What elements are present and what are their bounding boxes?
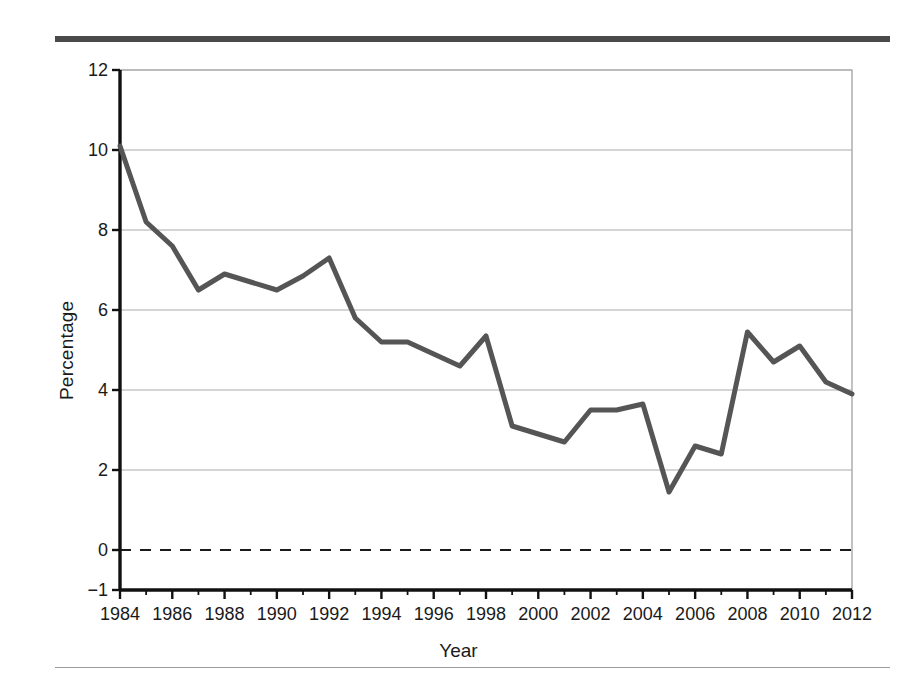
x-axis-tick-label: 2008: [727, 604, 767, 625]
y-axis-tick-label: 0: [60, 540, 108, 561]
x-axis-tick-label: 1986: [152, 604, 192, 625]
y-axis-tick-label: 12: [60, 60, 108, 81]
y-axis-tick-label: 4: [60, 380, 108, 401]
x-axis-tick-label: 2002: [571, 604, 611, 625]
line-chart-svg: [0, 0, 917, 693]
x-axis-tick-label: 1998: [466, 604, 506, 625]
x-axis-tick-label: 1988: [205, 604, 245, 625]
x-axis-tick-label: 2000: [518, 604, 558, 625]
y-axis-tick-label: 8: [60, 220, 108, 241]
chart-plot-area: Percentage Year −10246810121984198619881…: [0, 0, 917, 693]
x-axis-tick-label: 2012: [832, 604, 872, 625]
x-axis-tick-label: 2004: [623, 604, 663, 625]
y-axis-tick-label: 6: [60, 300, 108, 321]
y-axis-tick-label: −1: [60, 580, 108, 601]
bottom-divider-rule: [55, 667, 890, 668]
x-axis-title: Year: [0, 640, 917, 662]
x-axis-tick-label: 1996: [414, 604, 454, 625]
figure-container: Percentage Year −10246810121984198619881…: [0, 0, 917, 693]
y-axis-tick-label: 10: [60, 140, 108, 161]
y-axis-tick-label: 2: [60, 460, 108, 481]
x-axis-tick-label: 2010: [780, 604, 820, 625]
x-axis-tick-label: 1984: [100, 604, 140, 625]
x-axis-tick-label: 1990: [257, 604, 297, 625]
plot-frame: [120, 70, 852, 590]
x-axis-tick-label: 1992: [309, 604, 349, 625]
x-axis-tick-label: 1994: [361, 604, 401, 625]
data-series-line: [120, 146, 852, 492]
x-axis-tick-label: 2006: [675, 604, 715, 625]
y-axis-title-wrapper: Percentage: [0, 0, 1, 1]
